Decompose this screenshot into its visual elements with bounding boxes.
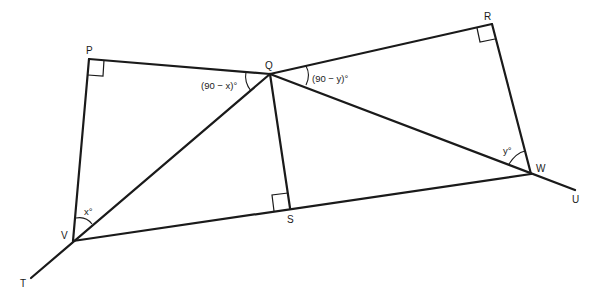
angle-label-pvq: x° xyxy=(84,206,93,217)
angle-label-qwr: y° xyxy=(503,145,512,156)
point-label-w: W xyxy=(536,163,546,174)
right-angle-mark-p xyxy=(88,60,104,76)
angle-arc-rqw xyxy=(306,66,309,85)
point-label-p: P xyxy=(86,45,93,56)
segment-qr xyxy=(270,24,492,74)
point-label-t: T xyxy=(20,278,26,289)
angle-label-rqw: (90 − y)° xyxy=(312,73,348,84)
right-angle-mark-s xyxy=(272,193,288,211)
right-angle-mark-r xyxy=(477,28,495,42)
point-label-r: R xyxy=(484,11,491,22)
segment-qs xyxy=(270,74,290,208)
geometry-diagram: P Q R W U V T S (90 − x)° (90 − y)° x° y… xyxy=(0,0,601,304)
angle-arc-pvq xyxy=(76,218,92,224)
segment-pq xyxy=(89,59,270,74)
segment-qw-u xyxy=(270,74,575,190)
angle-label-pqv: (90 − x)° xyxy=(201,80,237,91)
point-label-u: U xyxy=(572,194,579,205)
point-label-s: S xyxy=(287,214,294,225)
segment-qt xyxy=(31,74,270,278)
point-label-q: Q xyxy=(265,60,273,71)
point-label-v: V xyxy=(61,230,68,241)
angle-arc-pqv xyxy=(246,72,251,91)
